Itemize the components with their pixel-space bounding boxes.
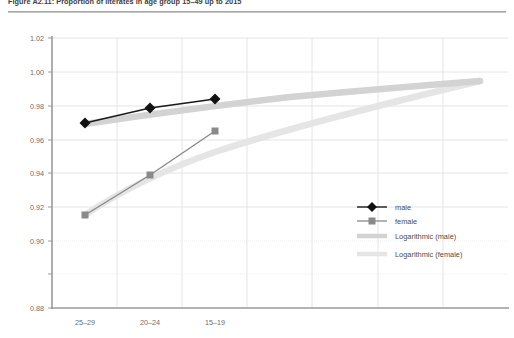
y-tick-label-0.88: 0.88 [30,304,44,313]
y-tick-label-1.00: 1.00 [30,68,44,77]
y-tick-label-1.02: 1.02 [30,34,44,43]
figure-container: Figure A2.11: Proportion of literates in… [0,0,514,338]
chart-legend: male female Logarithmic (male) Logarithm… [357,202,462,259]
legend-label-logarithmic-male: Logarithmic (male) [395,232,456,241]
x-tick-label-25-29: 25–29 [75,318,95,327]
legend-item-logarithmic-male[interactable]: Logarithmic (male) [357,232,456,241]
y-tick-label-0.94: 0.94 [30,169,44,178]
legend-label-male: male [395,203,411,212]
y-tick-label-0.96: 0.96 [30,136,44,145]
legend-label-logarithmic-female: Logarithmic (female) [395,250,462,259]
legend-item-female[interactable]: female [357,217,417,226]
y-tick-label-0.92: 0.92 [30,203,44,212]
y-tick-label-0.90: 0.90 [30,237,44,246]
trendline-logarithmic-male [85,81,480,124]
legend-item-logarithmic-female[interactable]: Logarithmic (female) [357,250,462,259]
x-tick-label-20-24: 20–24 [140,318,160,327]
x-tick-label-15-19: 15–19 [205,318,225,327]
legend-label-female: female [395,217,417,226]
y-tick-label-0.98: 0.98 [30,102,44,111]
legend-item-male[interactable]: male [357,202,411,212]
chart-canvas: 1.02 1.00 0.98 0.96 0.94 0.92 0.90 0.88 … [0,0,514,338]
